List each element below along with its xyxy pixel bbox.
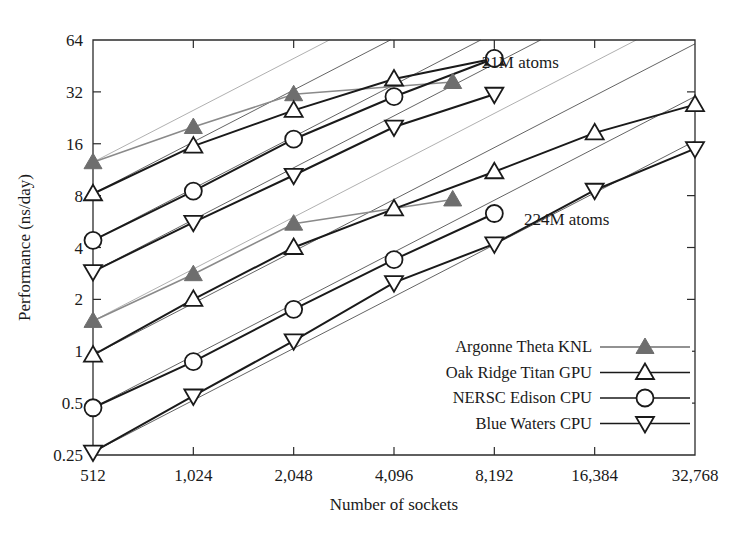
- marker-circle-open: [85, 232, 102, 249]
- marker-triangle-down-open: [84, 265, 102, 280]
- marker-triangle-down-open: [385, 121, 403, 136]
- legend-label[interactable]: Argonne Theta KNL: [455, 337, 592, 356]
- chart-annotation: 21M atoms: [482, 53, 559, 72]
- marker-circle-open: [486, 205, 503, 222]
- marker-circle-open: [185, 183, 202, 200]
- chart-annotation: 224M atoms: [524, 210, 609, 229]
- y-tick-label: 32: [66, 83, 83, 102]
- y-tick-label: 64: [66, 31, 84, 50]
- x-tick-label: 16,384: [571, 466, 618, 485]
- marker-triangle-up-filled: [84, 312, 102, 327]
- x-axis-tick-labels: 5121,0242,0484,0968,19216,38432,768Numbe…: [80, 466, 718, 514]
- marker-triangle-up-open: [84, 185, 102, 200]
- marker-circle-open: [185, 353, 202, 370]
- series-line: [93, 105, 695, 355]
- ideal-scaling-line: [93, 40, 541, 272]
- marker-triangle-down-open: [485, 237, 503, 252]
- y-axis-tick-labels: 0.250.51248163264Performance (ns/day): [15, 31, 84, 465]
- marker-triangle-down-open: [84, 446, 102, 461]
- marker-triangle-up-open: [285, 239, 303, 254]
- y-tick-label: 2: [75, 290, 84, 309]
- y-tick-label: 1: [75, 342, 84, 361]
- ideal-scaling-line: [93, 40, 636, 321]
- x-tick-label: 512: [80, 466, 106, 485]
- performance-scaling-chart: 5121,0242,0484,0968,19216,38432,768Numbe…: [0, 0, 754, 539]
- legend-label[interactable]: NERSC Edison CPU: [453, 388, 592, 407]
- x-tick-label: 4,096: [375, 466, 413, 485]
- marker-triangle-down-open: [586, 184, 604, 199]
- marker-circle-open: [386, 251, 403, 268]
- x-axis-title: Number of sockets: [330, 495, 458, 514]
- marker-triangle-down-open: [285, 169, 303, 184]
- marker-circle-open: [386, 88, 403, 105]
- marker-circle-open: [285, 301, 302, 318]
- marker-triangle-down-open: [184, 216, 202, 231]
- legend-marker: [637, 390, 654, 407]
- marker-triangle-up-filled: [184, 265, 202, 280]
- marker-circle-open: [285, 131, 302, 148]
- marker-triangle-up-filled: [84, 153, 102, 168]
- chart-annotations: 21M atoms224M atoms: [482, 53, 610, 229]
- y-tick-label: 16: [66, 135, 83, 154]
- marker-triangle-down-open: [385, 276, 403, 291]
- y-tick-label: 0.25: [53, 446, 83, 465]
- legend-label[interactable]: Oak Ridge Titan GPU: [446, 363, 592, 382]
- y-tick-label: 4: [75, 239, 84, 258]
- marker-triangle-down-open: [686, 142, 704, 157]
- chart-canvas: 5121,0242,0484,0968,19216,38432,768Numbe…: [0, 0, 754, 539]
- y-axis-title: Performance (ns/day): [15, 174, 34, 321]
- x-tick-label: 32,768: [672, 466, 719, 485]
- x-tick-label: 2,048: [275, 466, 313, 485]
- y-tick-label: 8: [75, 187, 84, 206]
- marker-triangle-up-open: [686, 96, 704, 111]
- marker-triangle-up-open: [485, 163, 503, 178]
- marker-triangle-up-filled: [444, 190, 462, 205]
- marker-circle-open: [85, 399, 102, 416]
- x-tick-label: 1,024: [174, 466, 213, 485]
- marker-triangle-up-open: [84, 346, 102, 361]
- chart-legend: Argonne Theta KNLOak Ridge Titan GPUNERS…: [402, 334, 692, 444]
- marker-triangle-down-open: [285, 334, 303, 349]
- legend-label[interactable]: Blue Waters CPU: [475, 414, 592, 433]
- x-tick-label: 8,192: [475, 466, 513, 485]
- marker-triangle-up-open: [184, 290, 202, 305]
- marker-triangle-up-filled: [444, 73, 462, 88]
- y-tick-label: 0.5: [62, 394, 83, 413]
